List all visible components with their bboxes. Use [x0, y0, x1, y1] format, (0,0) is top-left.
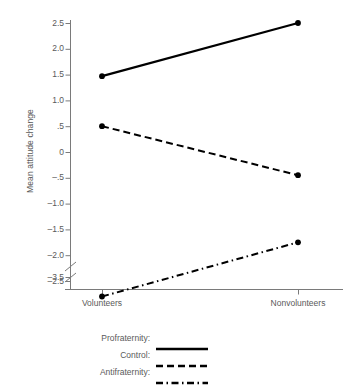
data-point-marker	[295, 239, 301, 245]
y-axis-tick-label-text: 1.0	[34, 95, 64, 105]
x-axis-tick-label: Nonvolunteers	[238, 298, 343, 308]
y-axis-tick-label-text: 2.0	[34, 43, 64, 53]
data-point-marker	[99, 73, 105, 79]
y-axis-tick-label-text: –1.0	[34, 198, 64, 208]
data-point-marker	[295, 172, 301, 178]
data-point-marker	[295, 20, 301, 26]
legend-item-label: Antifraternity:	[0, 367, 150, 377]
y-axis-tick-label-text: .5	[34, 121, 64, 131]
series-control	[99, 123, 301, 178]
x-axis-ticks	[103, 290, 299, 295]
y-axis-tick-label-text: –1.5	[34, 224, 64, 234]
series-line	[102, 23, 298, 76]
legend-item-control: Control:	[0, 347, 343, 364]
chart-legend: Profraternity:Control:Antifraternity:	[0, 330, 343, 381]
x-axis-tick-label: Volunteers	[42, 298, 162, 308]
legend-item-profraternity: Profraternity:	[0, 330, 343, 347]
series-antifraternity	[99, 239, 301, 299]
y-axis-ticks	[66, 24, 71, 282]
legend-item-label: Profraternity:	[0, 333, 150, 343]
legend-item-line-sample	[156, 354, 208, 357]
data-series-layer	[99, 20, 301, 299]
series-profraternity	[99, 20, 301, 79]
y-axis-tick-label-text: –.5	[34, 172, 64, 182]
y-axis-tick-label-text: –2.0	[34, 250, 64, 260]
y-axis-tick-label-text: 1.5	[34, 69, 64, 79]
legend-item-label: Control:	[0, 350, 150, 360]
series-line	[102, 126, 298, 175]
series-line	[102, 242, 298, 296]
legend-item-line-sample	[156, 371, 208, 374]
y-axis-tick-label-text: –3.5	[34, 272, 64, 282]
y-axis-tick-label-text: 2.5	[34, 18, 64, 28]
y-axis-tick-label-text: 0	[34, 147, 64, 157]
data-point-marker	[99, 123, 105, 129]
legend-item-antifraternity: Antifraternity:	[0, 364, 343, 381]
legend-item-line-sample	[156, 337, 208, 340]
